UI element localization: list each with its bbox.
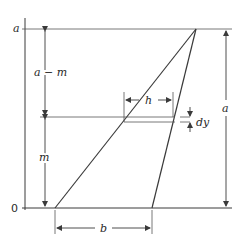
triangle-strip-diagram: a 0 a − m m h dy a b — [0, 0, 239, 238]
a-minus-m-label: a − m — [34, 66, 67, 79]
diagram-canvas: a 0 a − m m h dy a b — [0, 0, 239, 238]
triangle-right-side — [152, 29, 196, 208]
dy-label: dy — [196, 116, 210, 129]
h-label: h — [145, 94, 152, 107]
axis-origin-label: 0 — [11, 202, 18, 215]
right-a-label: a — [222, 102, 229, 115]
triangle-left-side — [55, 29, 196, 208]
m-label: m — [39, 151, 49, 164]
b-label: b — [100, 222, 107, 235]
axis-top-label: a — [13, 22, 20, 35]
